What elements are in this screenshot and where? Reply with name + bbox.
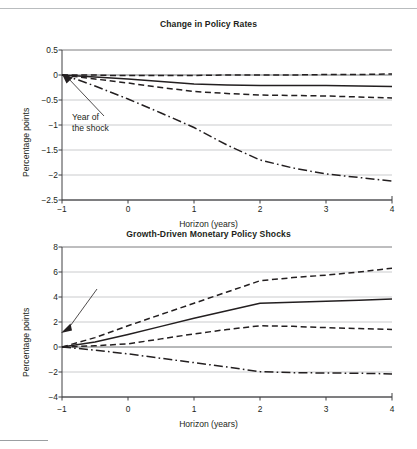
y-tick-label: −2 <box>28 171 58 179</box>
chart-title-growth-shocks: Growth-Driven Monetary Policy Shocks <box>0 229 417 239</box>
chart-canvas-growth-shocks <box>62 247 392 397</box>
y-tick-label: 0.5 <box>28 46 58 54</box>
figure-growth-shocks: Growth-Driven Monetary Policy Shocks Per… <box>0 225 417 449</box>
annotation-arrow-policy-rates <box>62 74 107 119</box>
series-line-alternative-specification <box>62 75 392 181</box>
x-tick-label: 4 <box>379 205 405 213</box>
x-tick-label: −1 <box>49 205 75 213</box>
series-line-point-estimate <box>62 299 392 347</box>
x-tick-label: 4 <box>379 405 405 413</box>
y-tick-label: 0 <box>28 71 58 79</box>
x-axis-title-growth-shocks: Horizon (years) <box>0 419 417 429</box>
x-tick-label: 3 <box>313 405 339 413</box>
x-tick-label: 1 <box>181 405 207 413</box>
chart-title-policy-rates: Change in Policy Rates <box>0 19 417 29</box>
x-tick-label: 3 <box>313 205 339 213</box>
y-tick-label: −4 <box>28 393 58 401</box>
x-tick-label: −1 <box>49 405 75 413</box>
plot-area-growth-shocks <box>62 247 392 397</box>
page-top-rule <box>0 8 417 9</box>
y-tick-label: 2 <box>28 318 58 326</box>
y-tick-label: 0 <box>28 343 58 351</box>
x-tick-label: 2 <box>247 405 273 413</box>
series-line-lower-confidence-band <box>62 326 392 347</box>
y-tick-label: −1 <box>28 121 58 129</box>
plot-area-policy-rates <box>62 50 392 200</box>
series-line-alternative-specification <box>62 347 392 374</box>
y-tick-label: −1.5 <box>28 146 58 154</box>
figure-policy-rates: Change in Policy Rates Percentage points… <box>0 14 417 225</box>
annotation-arrow-growth-shocks <box>61 285 101 333</box>
chart-canvas-policy-rates <box>62 50 392 200</box>
y-tick-label: 8 <box>28 243 58 251</box>
y-tick-label: −2 <box>28 368 58 376</box>
y-tick-label: 4 <box>28 293 58 301</box>
x-tick-label: 0 <box>115 205 141 213</box>
x-tick-label: 2 <box>247 205 273 213</box>
x-tick-label: 1 <box>181 205 207 213</box>
x-tick-label: 0 <box>115 405 141 413</box>
y-axis-title-policy-rates: Percentage points <box>21 108 31 177</box>
footnote-separator-rule <box>0 440 48 441</box>
y-tick-label: 6 <box>28 268 58 276</box>
y-tick-label: −0.5 <box>28 96 58 104</box>
figure-page: Change in Policy Rates Percentage points… <box>0 0 417 449</box>
y-tick-label: −2.5 <box>28 196 58 204</box>
series-line-upper-confidence-band <box>62 268 392 347</box>
